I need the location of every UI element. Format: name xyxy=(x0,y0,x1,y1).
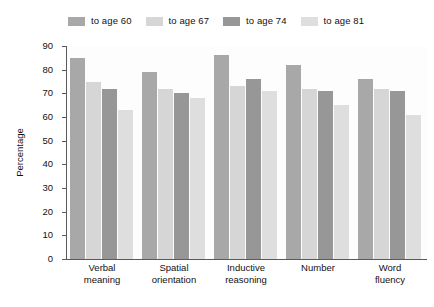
legend-swatch-icon xyxy=(68,17,85,26)
legend-entry[interactable]: to age 60 xyxy=(68,16,132,26)
bar-group xyxy=(211,46,283,259)
bar[interactable] xyxy=(374,89,389,259)
bar[interactable] xyxy=(246,79,261,259)
x-axis-label-line1: Verbal xyxy=(89,262,116,273)
x-axis-labels: VerbalmeaningSpatialorientationInductive… xyxy=(66,262,426,296)
bar[interactable] xyxy=(318,91,333,259)
bar[interactable] xyxy=(190,98,205,259)
bars-layer xyxy=(67,46,427,259)
y-axis-tick xyxy=(62,259,67,260)
bar[interactable] xyxy=(102,89,117,259)
bar[interactable] xyxy=(118,110,133,259)
x-axis-label-line2: orientation xyxy=(138,274,210,286)
y-axis-title: Percentage xyxy=(12,46,28,259)
bar-group xyxy=(139,46,211,259)
y-axis-tick-label: 50 xyxy=(23,136,53,146)
y-axis-tick-label: 30 xyxy=(23,183,53,193)
plot-area: 9080706050403020100 xyxy=(66,46,427,260)
bar-chart: to age 60to age 67to age 74to age 81 Per… xyxy=(0,0,434,307)
x-axis-label-line2: meaning xyxy=(66,274,138,286)
legend-swatch-icon xyxy=(301,17,318,26)
bar[interactable] xyxy=(262,91,277,259)
bar[interactable] xyxy=(230,86,245,259)
x-axis-label-line2: fluency xyxy=(354,274,426,286)
bar[interactable] xyxy=(70,58,85,259)
bar-group xyxy=(283,46,355,259)
legend-entry[interactable]: to age 74 xyxy=(223,16,287,26)
bar[interactable] xyxy=(174,93,189,259)
bar[interactable] xyxy=(86,82,101,260)
x-axis-label-line1: Number xyxy=(301,262,335,273)
bar[interactable] xyxy=(390,91,405,259)
legend-entry[interactable]: to age 81 xyxy=(301,16,365,26)
legend-label: to age 74 xyxy=(246,16,287,26)
bar-group xyxy=(67,46,139,259)
y-axis-tick-label: 60 xyxy=(23,112,53,122)
bar[interactable] xyxy=(358,79,373,259)
bar[interactable] xyxy=(214,55,229,259)
y-axis-tick-label: 40 xyxy=(23,159,53,169)
y-axis-tick-label: 20 xyxy=(23,207,53,217)
y-axis-tick-label: 80 xyxy=(23,65,53,75)
bar[interactable] xyxy=(142,72,157,259)
x-axis-category-label: Number xyxy=(282,262,354,274)
y-axis-tick-label: 90 xyxy=(23,41,53,51)
x-axis-label-line1: Word xyxy=(379,262,402,273)
x-axis-category-label: Wordfluency xyxy=(354,262,426,285)
bar[interactable] xyxy=(286,65,301,259)
y-axis-tick-label: 70 xyxy=(23,88,53,98)
bar[interactable] xyxy=(302,89,317,259)
bar[interactable] xyxy=(334,105,349,259)
legend-swatch-icon xyxy=(223,17,240,26)
y-axis-tick-label: 10 xyxy=(23,230,53,240)
x-axis-label-line1: Inductive xyxy=(227,262,265,273)
y-axis-tick-label: 0 xyxy=(23,254,53,264)
chart-legend: to age 60to age 67to age 74to age 81 xyxy=(68,14,426,28)
x-axis-category-label: Inductivereasoning xyxy=(210,262,282,285)
legend-label: to age 81 xyxy=(324,16,365,26)
bar[interactable] xyxy=(158,89,173,259)
legend-entry[interactable]: to age 67 xyxy=(146,16,210,26)
x-axis-category-label: Verbalmeaning xyxy=(66,262,138,285)
legend-swatch-icon xyxy=(146,17,163,26)
bar-group xyxy=(355,46,427,259)
x-axis-label-line2: reasoning xyxy=(210,274,282,286)
legend-label: to age 67 xyxy=(169,16,210,26)
legend-label: to age 60 xyxy=(91,16,132,26)
x-axis-category-label: Spatialorientation xyxy=(138,262,210,285)
bar[interactable] xyxy=(406,115,421,259)
x-axis-label-line1: Spatial xyxy=(159,262,188,273)
